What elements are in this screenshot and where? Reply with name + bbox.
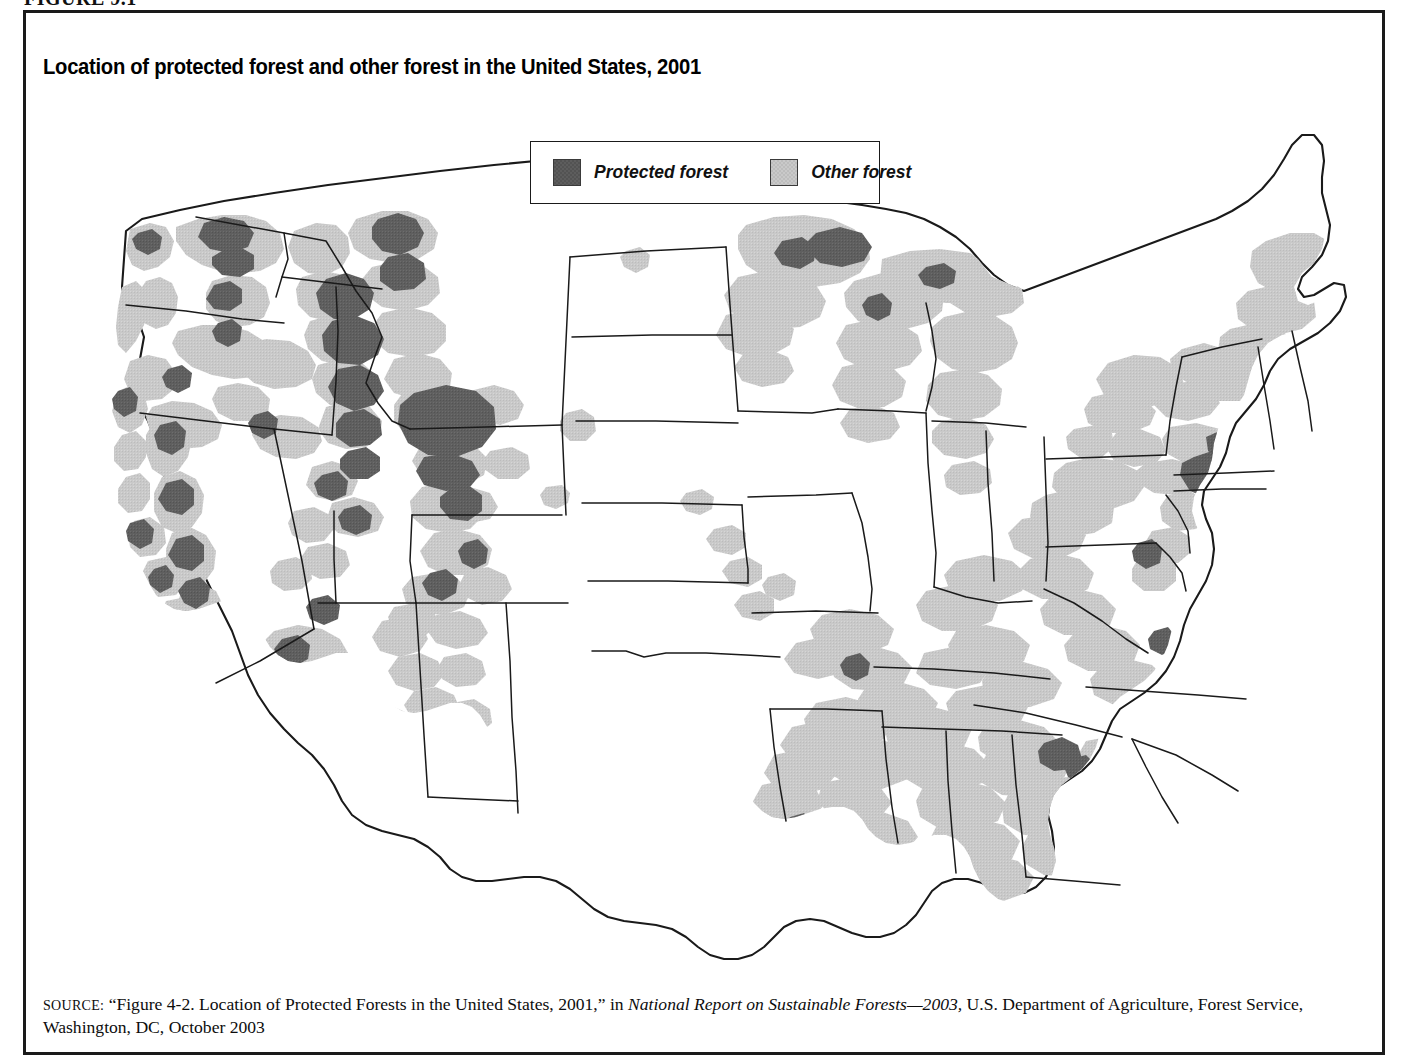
- source-note: SOURCE: “Figure 4-2. Location of Protect…: [43, 993, 1363, 1040]
- source-text-before: “Figure 4-2. Location of Protected Fores…: [104, 994, 628, 1014]
- source-prefix: SOURCE:: [43, 998, 104, 1013]
- legend-label-other-forest: Other forest: [811, 162, 911, 183]
- legend-item-protected: Protected forest: [553, 159, 728, 186]
- legend-swatch-other-forest: [770, 159, 798, 186]
- figure-frame: Location of protected forest and other f…: [23, 10, 1385, 1055]
- figure-label: FIGURE 9.1: [24, 0, 137, 10]
- source-publication-title: National Report on Sustainable Forests—2…: [628, 994, 962, 1014]
- map-svg: [26, 91, 1382, 971]
- map-legend: Protected forest Other forest: [530, 141, 880, 204]
- legend-item-other: Other forest: [770, 159, 911, 186]
- us-forest-map: [26, 91, 1382, 971]
- page-title: Location of protected forest and other f…: [43, 55, 701, 80]
- legend-label-protected-forest: Protected forest: [594, 162, 728, 183]
- legend-swatch-protected-forest: [553, 159, 581, 186]
